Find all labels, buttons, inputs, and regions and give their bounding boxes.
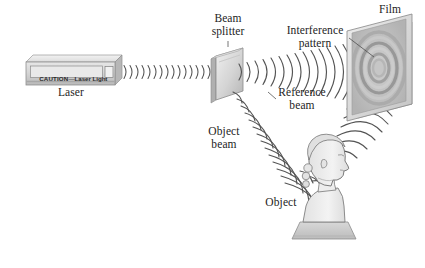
label-object: Object (258, 196, 304, 209)
label-laser: Laser (43, 86, 99, 99)
caution-laser-light: Laser Light (75, 75, 108, 82)
wave-laser-to-splitter (124, 66, 216, 79)
film-plate (347, 14, 412, 121)
caution-word: CAUTION (39, 75, 68, 82)
label-beam-splitter: Beamsplitter (199, 12, 257, 38)
label-reference-beam: Referencebeam (271, 86, 333, 112)
label-interference-line2: pattern (299, 37, 332, 49)
label-film: Film (372, 3, 408, 16)
label-reference-line2: beam (289, 99, 314, 111)
holography-diagram: CAUTION—Laser Light Laser Beamsplitter I… (0, 0, 425, 268)
label-reference-line1: Reference (278, 86, 326, 98)
label-interference-pattern: Interferencepattern (280, 24, 350, 50)
label-beam-splitter-line2: splitter (212, 25, 245, 37)
label-beam-splitter-line1: Beam (214, 12, 241, 24)
label-interference-line1: Interference (287, 24, 344, 36)
label-object-beam-line2: beam (211, 138, 236, 150)
label-object-beam: Objectbeam (198, 125, 250, 151)
label-object-beam-line1: Object (208, 125, 239, 137)
